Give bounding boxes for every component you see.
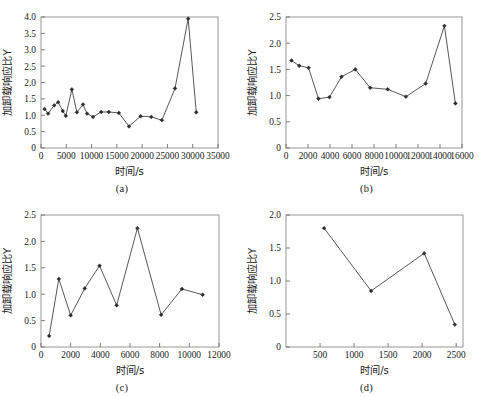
x-tick-label: 14000	[428, 151, 452, 161]
data-point-marker	[317, 97, 321, 101]
panel-d: 500100015002000250000.51.01.52.0时间/s加卸载响…	[244, 198, 489, 397]
data-point-marker	[454, 102, 458, 106]
y-tick-label: 3.5	[24, 29, 36, 39]
y-tick-label: 2.0	[24, 237, 36, 247]
data-point-marker	[91, 115, 95, 119]
x-tick-label: 8000	[150, 350, 169, 360]
data-point-marker	[107, 110, 111, 114]
x-tick-label: 4000	[91, 350, 110, 360]
y-axis-title: 加卸载响应比Y	[1, 247, 13, 314]
data-point-marker	[47, 334, 51, 338]
x-axis-title: 时间/s	[360, 364, 389, 376]
y-tick-label: 2.0	[24, 78, 36, 88]
x-tick-label: 0	[284, 151, 289, 161]
series-line	[292, 26, 456, 104]
data-point-marker	[160, 118, 164, 122]
x-tick-label: 12000	[406, 151, 430, 161]
data-point-marker	[149, 115, 153, 119]
y-tick-label: 2.0	[269, 39, 281, 49]
x-tick-label: 10000	[384, 151, 408, 161]
panel-d-caption: (d)	[244, 382, 489, 393]
x-tick-label: 8000	[365, 151, 384, 161]
x-tick-label: 0	[39, 151, 44, 161]
series-line	[324, 228, 455, 324]
y-tick-label: 0	[31, 143, 36, 153]
series-line	[49, 228, 203, 336]
y-tick-label: 2.0	[269, 210, 281, 220]
y-tick-label: 4.0	[24, 12, 36, 22]
chart-a: 0500010000150002000025000300003500000.51…	[0, 0, 244, 198]
data-point-marker	[69, 313, 73, 317]
x-tick-label: 1500	[379, 350, 398, 360]
y-tick-label: 1.0	[24, 111, 36, 121]
data-point-marker	[194, 110, 198, 114]
x-tick-label: 1000	[345, 350, 364, 360]
y-tick-label: 0.5	[269, 117, 281, 127]
x-tick-label: 6000	[343, 151, 362, 161]
chart-c: 02000400060008000100001200000.51.01.52.0…	[0, 198, 244, 397]
data-point-marker	[115, 303, 119, 307]
data-point-marker	[340, 75, 344, 79]
x-tick-label: 2000	[61, 350, 80, 360]
y-tick-label: 2.5	[24, 210, 36, 220]
data-point-marker	[386, 87, 390, 91]
data-point-marker	[136, 226, 140, 230]
panel-c-caption: (c)	[0, 382, 244, 393]
x-tick-label: 25000	[156, 151, 180, 161]
data-point-marker	[99, 110, 103, 114]
data-point-marker	[57, 277, 61, 281]
x-tick-label: 0	[39, 350, 44, 360]
y-tick-label: 1.5	[269, 65, 281, 75]
x-tick-label: 4000	[321, 151, 340, 161]
x-tick-label: 6000	[121, 350, 140, 360]
y-tick-label: 1.5	[24, 94, 36, 104]
x-axis-title: 时间/s	[360, 165, 389, 177]
data-point-marker	[307, 66, 311, 70]
panel-c: 02000400060008000100001200000.51.01.52.0…	[0, 198, 244, 397]
chart-d: 500100015002000250000.51.01.52.0时间/s加卸载响…	[244, 198, 489, 397]
x-tick-label: 500	[313, 350, 327, 360]
y-axis-title: 加卸载响应比Y	[246, 247, 258, 314]
chart-b: 020004000600080001000012000140001600000.…	[244, 0, 489, 198]
x-axis-title: 时间/s	[116, 364, 145, 376]
panel-a: 0500010000150002000025000300003500000.51…	[0, 0, 244, 198]
x-tick-label: 20000	[130, 151, 154, 161]
figure-grid: 0500010000150002000025000300003500000.51…	[0, 0, 489, 397]
data-point-marker	[173, 86, 177, 90]
x-tick-label: 30000	[181, 151, 205, 161]
y-tick-label: 3.0	[24, 45, 36, 55]
x-tick-label: 10000	[178, 350, 202, 360]
y-tick-label: 2.5	[269, 12, 281, 22]
y-tick-label: 0	[276, 143, 281, 153]
series-line	[45, 19, 197, 127]
y-tick-label: 0.5	[24, 316, 36, 326]
x-tick-label: 12000	[207, 350, 231, 360]
y-tick-label: 1.5	[24, 263, 36, 273]
y-tick-label: 0	[276, 342, 281, 352]
y-tick-label: 0.5	[269, 309, 281, 319]
y-tick-label: 1.0	[269, 276, 281, 286]
data-point-marker	[64, 114, 68, 118]
x-tick-label: 2500	[447, 350, 466, 360]
x-tick-label: 35000	[206, 151, 230, 161]
y-tick-label: 0	[31, 342, 36, 352]
data-point-marker	[443, 24, 447, 28]
y-tick-label: 1.5	[269, 243, 281, 253]
data-point-marker	[201, 293, 205, 297]
y-tick-label: 0.5	[24, 127, 36, 137]
y-axis-title: 加卸载响应比Y	[246, 49, 258, 116]
y-tick-label: 1.0	[269, 91, 281, 101]
y-axis-title: 加卸载响应比Y	[1, 49, 13, 116]
data-point-marker	[85, 112, 89, 116]
x-axis-title: 时间/s	[115, 165, 144, 177]
x-tick-label: 5000	[57, 151, 76, 161]
data-point-marker	[61, 109, 65, 113]
x-tick-label: 2000	[299, 151, 318, 161]
panel-a-caption: (a)	[0, 183, 244, 194]
x-tick-label: 15000	[105, 151, 129, 161]
data-point-marker	[328, 95, 332, 99]
panel-b-caption: (b)	[244, 183, 489, 194]
panel-b: 020004000600080001000012000140001600000.…	[244, 0, 489, 198]
y-tick-label: 2.5	[24, 62, 36, 72]
x-tick-label: 10000	[80, 151, 104, 161]
